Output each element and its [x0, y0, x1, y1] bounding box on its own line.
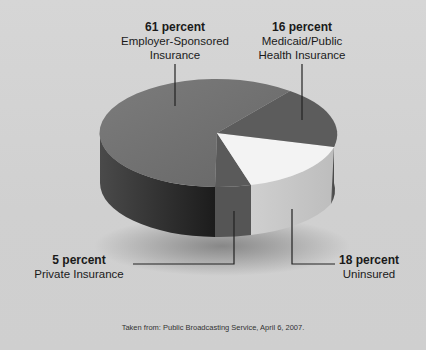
label-uninsured-percent: 18 percent: [336, 253, 402, 267]
label-private-line1: Private Insurance: [28, 267, 130, 281]
slice-side-private: [215, 185, 251, 237]
label-uninsured: 18 percent Uninsured: [336, 253, 402, 281]
label-uninsured-line1: Uninsured: [336, 267, 402, 281]
label-medicaid-line1: Medicaid/Public: [252, 34, 352, 48]
label-private: 5 percent Private Insurance: [28, 253, 130, 281]
label-employer-line1: Employer-Sponsored: [118, 34, 232, 48]
label-medicaid-percent: 16 percent: [252, 20, 352, 34]
label-private-percent: 5 percent: [28, 253, 130, 267]
source-note: Taken from: Public Broadcasting Service,…: [0, 323, 426, 332]
label-medicaid-line2: Health Insurance: [252, 48, 352, 62]
label-employer-line2: Insurance: [118, 48, 232, 62]
label-employer-percent: 61 percent: [118, 20, 232, 34]
label-medicaid: 16 percent Medicaid/Public Health Insura…: [252, 20, 352, 62]
label-employer: 61 percent Employer-Sponsored Insurance: [118, 20, 232, 62]
